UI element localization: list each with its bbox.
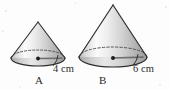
figure-canvas: [0, 0, 170, 90]
cone-a-dimension-label: 4 cm: [53, 64, 74, 75]
cone-a-name-label: A: [35, 75, 43, 86]
cone-a: [11, 22, 65, 66]
cone-comparison-figure: A 4 cm B 6 cm: [0, 0, 170, 90]
cone-b-dimension-label: 6 cm: [133, 64, 154, 75]
cone-b: [79, 5, 147, 67]
cone-b-radius-line: [113, 57, 143, 58]
cone-b-center-dot: [111, 56, 115, 60]
cone-b-name-label: B: [99, 75, 106, 86]
cone-a-center-dot: [36, 57, 40, 61]
